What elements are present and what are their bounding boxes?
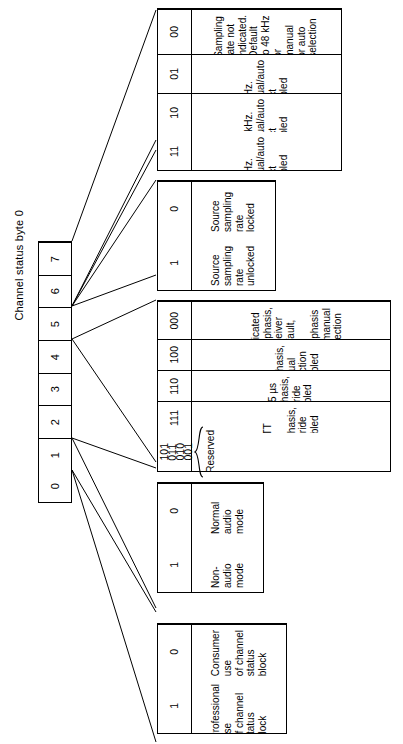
connector-bit5-lock-a	[72, 180, 156, 306]
code-cell: 10	[158, 94, 192, 132]
table-row: 1 Professional use of channel status blo…	[158, 679, 286, 733]
emphasis-table: 001 010 011 101 Reserved 111 CCITT J.17 …	[157, 300, 391, 472]
connector-bit6-sampling-b	[72, 150, 156, 306]
code-cell: 000	[158, 302, 192, 339]
connector-bit6-sampling-a	[72, 140, 156, 306]
bit-strip: 0 1 2 3 4 5 6 7	[38, 241, 72, 503]
reserved-codes: 001 010 011 101	[158, 433, 192, 471]
code-cell: 100	[158, 340, 192, 370]
connector-bit0-use-b	[72, 470, 156, 742]
table-row: 110 50/15 µs emphasis, override disabled	[158, 370, 390, 401]
bit-cell-1: 1	[39, 438, 71, 471]
bit-cell-0: 0	[39, 470, 71, 502]
reserved-desc: Reserved	[192, 433, 390, 471]
reserved-label: Reserved	[204, 430, 217, 475]
code-cell: 1	[158, 236, 192, 290]
table-row: 1 Non-audio mode	[158, 538, 263, 592]
desc-cell: 32 kHz. Manual/auto select disabled	[192, 132, 341, 170]
code-cell: 111	[158, 402, 192, 432]
desc-cell: No indicated emphasis, receiver default,…	[192, 302, 390, 339]
bit-cell-2: 2	[39, 405, 71, 438]
table-row: 10 44.1 kHz. Manual/auto select disabled	[158, 93, 341, 132]
code-cell: 0	[158, 182, 192, 236]
bit-cell-5: 5	[39, 307, 71, 340]
desc-cell: Non-audio mode	[192, 538, 263, 592]
desc-cell: Sampling rate not indicated. Default to …	[192, 10, 341, 54]
table-row: 0 Source sampling rate locked	[158, 181, 275, 236]
desc-cell: Source sampling rate unlocked	[192, 236, 275, 290]
audio-mode-table: 1 Non-audio mode 0 Normal audio mode	[157, 482, 264, 593]
connector-bit5-lock-b	[72, 275, 156, 306]
table-row: 00 Sampling rate not indicated. Default …	[158, 9, 341, 54]
table-row: 11 32 kHz. Manual/auto select disabled	[158, 132, 341, 170]
table-row: 1 Source sampling rate unlocked	[158, 236, 275, 290]
use-table: 1 Professional use of channel status blo…	[157, 623, 287, 734]
table-row: 0 Normal audio mode	[158, 483, 263, 538]
table-row: 100 No emphasis, manual selection disabl…	[158, 339, 390, 370]
code-cell: 01	[158, 55, 192, 93]
connector-bit0-use-a	[72, 470, 156, 612]
sampling-rate-table: 11 32 kHz. Manual/auto select disabled 1…	[157, 8, 342, 171]
desc-cell: No emphasis, manual selection disabled	[192, 340, 390, 370]
connector-bit7-sampling	[72, 10, 156, 241]
source-lock-table: 1 Source sampling rate unlocked 0 Source…	[157, 180, 276, 291]
table-row: 01 48 kHz. Manual/auto select disabled	[158, 54, 341, 93]
diagram-title-text: Channel status byte 0	[13, 210, 26, 321]
bit-cell-6: 6	[39, 275, 71, 308]
desc-cell: Professional use of channel status block	[192, 679, 286, 733]
connector-bit4-emphasis	[72, 300, 156, 339]
connector-bit2-emphasis	[72, 339, 156, 462]
code-cell: 00	[158, 10, 192, 54]
connector-bit1-audio-b	[72, 438, 156, 608]
bit-cell-7: 7	[39, 242, 71, 275]
desc-cell: 48 kHz. Manual/auto select disabled	[192, 55, 341, 93]
desc-cell: Consumer use of channel status block	[192, 625, 286, 679]
desc-cell: CCITT J.17 emphasis, override disabled	[192, 402, 390, 432]
bit-cell-4: 4	[39, 340, 71, 373]
connector-bit1-audio-a	[72, 438, 156, 468]
code-cell: 0	[158, 484, 192, 538]
desc-cell: Source sampling rate locked	[192, 182, 275, 236]
table-row: 000 No indicated emphasis, receiver defa…	[158, 301, 390, 339]
table-row: 0 Consumer use of channel status block	[158, 624, 286, 679]
desc-cell: Normal audio mode	[192, 484, 263, 538]
reserved-code-3: 101	[159, 443, 167, 461]
curly-brace-icon	[194, 433, 204, 471]
table-row: 111 CCITT J.17 emphasis, override disabl…	[158, 401, 390, 432]
desc-cell: 44.1 kHz. Manual/auto select disabled	[192, 94, 341, 132]
desc-cell: 50/15 µs emphasis, override disabled	[192, 371, 390, 401]
table-row-reserved: 001 010 011 101 Reserved	[158, 433, 390, 471]
bit-cell-3: 3	[39, 373, 71, 406]
code-cell: 110	[158, 371, 192, 401]
code-cell: 1	[158, 538, 192, 592]
code-cell: 1	[158, 679, 192, 733]
code-cell: 11	[158, 132, 192, 170]
code-cell: 0	[158, 625, 192, 679]
page-title: Channel status byte 0	[8, 210, 30, 460]
diagram-canvas: Channel status byte 0 0 1 2 3 4 5 6 7 11…	[0, 0, 403, 744]
